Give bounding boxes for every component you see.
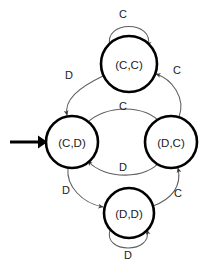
transition-cc-self-label: C bbox=[119, 8, 127, 20]
transition-cd-to-dd[interactable]: D bbox=[62, 168, 103, 207]
state-node-dd[interactable]: (D,D) bbox=[104, 188, 154, 238]
fsm-canvas: C D C C D bbox=[0, 0, 216, 269]
transition-cc-to-cd-label: D bbox=[65, 69, 73, 81]
transition-dc-to-cc[interactable]: C bbox=[156, 64, 181, 117]
state-label-cd: (C,D) bbox=[58, 137, 86, 149]
state-node-cc[interactable]: (C,C) bbox=[101, 36, 157, 92]
state-node-dc[interactable]: (D,C) bbox=[145, 116, 197, 168]
transition-cd-to-dd-label: D bbox=[62, 184, 70, 196]
transition-dd-self-label: D bbox=[124, 249, 132, 261]
transition-dc-to-cc-path bbox=[156, 74, 181, 117]
state-machine-diagram: C D C C D bbox=[0, 0, 216, 269]
state-label-dc: (D,C) bbox=[157, 137, 185, 149]
transition-cd-to-dc-label: C bbox=[119, 100, 127, 112]
transition-dc-to-cd-label: D bbox=[119, 161, 127, 173]
state-node-cd[interactable]: (C,D) bbox=[46, 116, 98, 168]
transition-dd-to-dc[interactable]: C bbox=[153, 168, 182, 206]
transition-cd-to-dc[interactable]: C bbox=[86, 100, 161, 124]
transition-dc-to-cd[interactable]: D bbox=[88, 160, 161, 175]
transition-cc-to-cd-path bbox=[67, 76, 103, 115]
state-label-cc: (C,C) bbox=[115, 59, 143, 71]
start-state-arrow bbox=[10, 136, 48, 149]
transition-dc-to-cc-label: C bbox=[173, 64, 181, 76]
transition-cc-to-cd[interactable]: D bbox=[65, 69, 103, 115]
state-label-dd: (D,D) bbox=[115, 208, 143, 220]
transition-dd-to-dc-label: C bbox=[174, 187, 182, 199]
transition-cd-to-dd-path bbox=[68, 168, 103, 207]
